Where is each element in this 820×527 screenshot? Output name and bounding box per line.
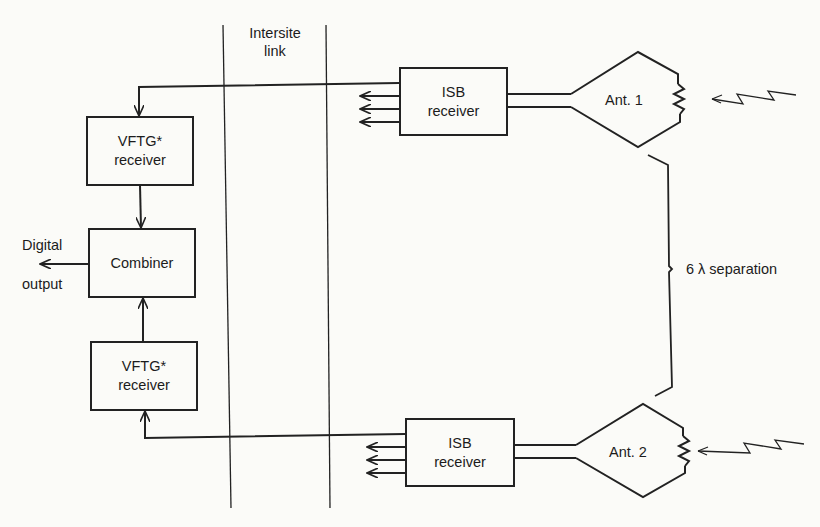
intersite-label-line1: Intersite [240, 24, 310, 42]
antenna-1-label: Ant. 1 [605, 91, 675, 109]
vftg-top-label-line2: receiver [114, 151, 166, 170]
isb-top-label-line2: receiver [428, 102, 480, 121]
vftg-top-to-combiner-arrow [140, 185, 141, 228]
intersite-label-line2: link [240, 42, 310, 60]
combiner-label: Combiner [111, 254, 174, 273]
isb-bottom-label-line1: ISB [448, 434, 471, 453]
vftg-bottom-label-line1: VFTG* [122, 357, 166, 376]
isb-bottom-label-line2: receiver [434, 453, 486, 472]
isb-receiver-top: ISB receiver [399, 67, 508, 136]
vftg-bottom-label-line2: receiver [118, 376, 170, 395]
vftg-receiver-bottom: VFTG* receiver [90, 341, 198, 411]
bottom-link-line [145, 411, 405, 438]
digital-output-label-top: Digital [22, 236, 80, 254]
ant1-text: Ant. 1 [605, 92, 643, 108]
incoming-signal-1-icon [712, 91, 796, 104]
isb-top-output-arrows [360, 96, 399, 122]
separation-text: 6 λ separation [686, 261, 777, 277]
vftg-receiver-top: VFTG* receiver [86, 116, 194, 186]
digital-label: Digital [22, 237, 62, 253]
intersite-link-label: Intersite link [240, 24, 310, 60]
separation-brace [648, 155, 672, 396]
combiner-block: Combiner [88, 228, 196, 298]
ant2-text: Ant. 2 [609, 444, 647, 460]
top-link-line [139, 83, 399, 116]
incoming-signal-2-icon [698, 440, 804, 455]
vftg-top-label-line1: VFTG* [118, 132, 162, 151]
isb-bottom-output-arrows [367, 447, 405, 473]
output-label: output [22, 276, 62, 292]
separation-label: 6 λ separation [686, 260, 816, 278]
isb-receiver-bottom: ISB receiver [405, 418, 515, 487]
antenna-2-label: Ant. 2 [609, 443, 679, 461]
isb-top-label-line1: ISB [442, 83, 465, 102]
digital-output-label-bottom: output [22, 275, 80, 293]
